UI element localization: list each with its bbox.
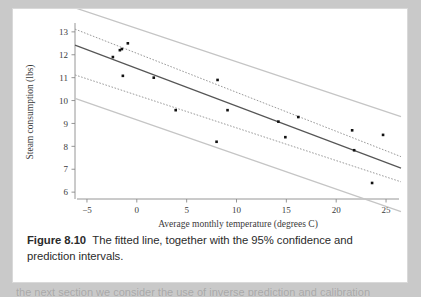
x-tick-label: −5 — [82, 205, 92, 215]
x-tick-label: 10 — [232, 205, 242, 215]
fitted-line — [75, 45, 401, 168]
data-point — [351, 129, 354, 132]
y-tick-label: 8 — [64, 142, 69, 152]
y-tick-label: 6 — [64, 187, 69, 197]
data-point — [277, 120, 280, 123]
data-point — [353, 149, 356, 152]
data-point — [112, 56, 115, 59]
data-point — [122, 75, 125, 78]
y-tick-label: 10 — [59, 96, 69, 106]
confidence-interval-band — [75, 29, 401, 182]
confidence-interval-band-lower — [75, 75, 401, 182]
y-tick-label: 7 — [64, 164, 69, 174]
figure-panel: −50510152025678910111213Average monthly … — [12, 8, 408, 283]
x-axis-ticks: −50510152025 — [82, 199, 391, 215]
confidence-interval-band-upper — [75, 29, 401, 157]
x-tick-label: 15 — [282, 205, 292, 215]
x-tick-label: 5 — [184, 205, 189, 215]
figure-caption-label: Figure 8.10 — [27, 234, 86, 246]
axes — [75, 23, 399, 199]
y-tick-label: 13 — [59, 27, 69, 37]
x-tick-label: 20 — [332, 205, 342, 215]
y-tick-label: 11 — [59, 73, 68, 83]
plot-area: −50510152025678910111213Average monthly … — [13, 9, 409, 231]
y-axis-ticks: 678910111213 — [59, 27, 75, 197]
data-point — [121, 48, 124, 51]
data-point — [226, 109, 229, 112]
data-point — [215, 140, 218, 143]
data-point — [216, 79, 219, 82]
data-point — [284, 136, 287, 139]
figure-caption: Figure 8.10 The fitted line, together wi… — [27, 233, 399, 264]
y-axis-label: Steam consumption (lbs) — [25, 65, 36, 160]
x-tick-label: 0 — [135, 205, 140, 215]
x-axis-label: Average monthly temperature (degrees C) — [158, 219, 318, 230]
data-point — [174, 109, 177, 112]
data-point — [297, 116, 300, 119]
data-point — [371, 182, 374, 185]
y-tick-label: 12 — [59, 50, 68, 60]
page-body-text-cutoff: the next section we consider the use of … — [16, 286, 416, 296]
page-background: −50510152025678910111213Average monthly … — [0, 0, 421, 297]
prediction-interval-band — [75, 9, 401, 212]
prediction-interval-band-upper — [75, 9, 401, 117]
data-point — [382, 134, 385, 137]
data-point — [152, 76, 155, 79]
prediction-interval-band-lower — [75, 98, 401, 211]
scatter-plot: −50510152025678910111213Average monthly … — [13, 9, 409, 231]
y-tick-label: 9 — [64, 119, 69, 129]
data-point — [127, 42, 130, 45]
